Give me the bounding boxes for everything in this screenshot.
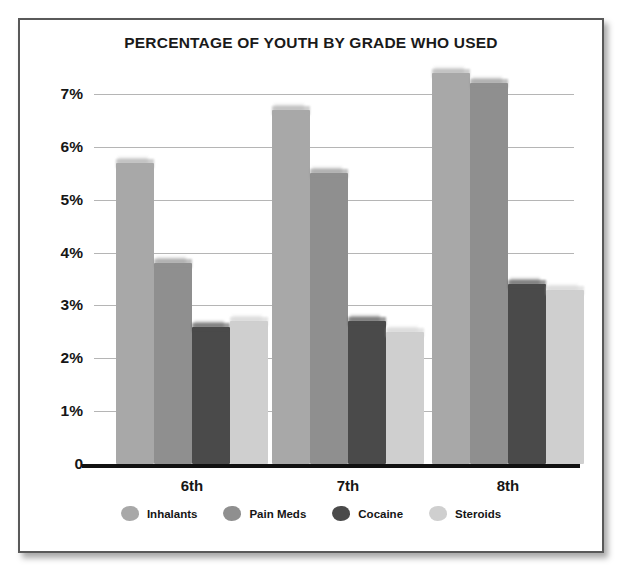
- bar-6th-cocaine[interactable]: [192, 327, 230, 464]
- bar-6th-pain-meds[interactable]: [154, 263, 192, 464]
- legend-label: Pain Meds: [249, 508, 306, 520]
- legend-label: Cocaine: [358, 508, 403, 520]
- bar-7th-inhalants[interactable]: [272, 110, 310, 464]
- legend-swatch-icon: [332, 506, 350, 521]
- legend-swatch-icon: [429, 506, 447, 521]
- x-axis-tick-label-6th: 6th: [112, 477, 272, 494]
- y-axis-tick-label: 3%: [61, 296, 83, 314]
- bar-6th-steroids[interactable]: [230, 321, 268, 464]
- chart-title: PERCENTAGE OF YOUTH BY GRADE WHO USED: [20, 34, 602, 52]
- bar-group-6th: [116, 94, 268, 464]
- legend-item-cocaine[interactable]: Cocaine: [332, 506, 403, 521]
- bars-layer: [94, 94, 574, 464]
- bar-6th-inhalants[interactable]: [116, 163, 154, 464]
- y-axis-tick-label: 1%: [61, 402, 83, 420]
- legend-label: Inhalants: [147, 508, 197, 520]
- bar-group-8th: [432, 94, 584, 464]
- plot-area: 01%2%3%4%5%6%7% 6th7th8th: [94, 94, 574, 464]
- bar-7th-pain-meds[interactable]: [310, 173, 348, 464]
- y-axis-tick-label: 5%: [61, 191, 83, 209]
- bar-8th-pain-meds[interactable]: [470, 83, 508, 464]
- y-axis-tick-label: 7%: [61, 85, 83, 103]
- x-axis-tick-label-8th: 8th: [428, 477, 588, 494]
- y-axis-tick-label: 2%: [61, 349, 83, 367]
- bar-8th-steroids[interactable]: [546, 290, 584, 464]
- bar-group-7th: [272, 94, 424, 464]
- legend-swatch-icon: [223, 506, 241, 521]
- bar-8th-inhalants[interactable]: [432, 73, 470, 464]
- legend-item-pain-meds[interactable]: Pain Meds: [223, 506, 306, 521]
- legend-swatch-icon: [121, 506, 139, 521]
- legend-item-inhalants[interactable]: Inhalants: [121, 506, 197, 521]
- bar-7th-steroids[interactable]: [386, 332, 424, 464]
- y-axis-tick-label: 6%: [61, 138, 83, 156]
- x-axis-line: [82, 464, 580, 468]
- legend-label: Steroids: [455, 508, 501, 520]
- y-axis-tick-label: 4%: [61, 244, 83, 262]
- chart-legend: InhalantsPain MedsCocaineSteroids: [20, 506, 602, 521]
- bar-7th-cocaine[interactable]: [348, 321, 386, 464]
- chart-card: PERCENTAGE OF YOUTH BY GRADE WHO USED 01…: [18, 18, 604, 553]
- bar-8th-cocaine[interactable]: [508, 284, 546, 464]
- x-axis-tick-label-7th: 7th: [268, 477, 428, 494]
- legend-item-steroids[interactable]: Steroids: [429, 506, 501, 521]
